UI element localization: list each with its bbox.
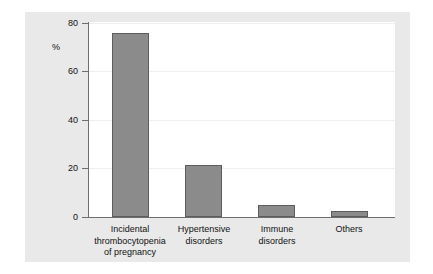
y-tick-label-60: 60 — [48, 67, 78, 76]
x-tick-label-line: of pregnancy — [78, 247, 182, 259]
y-tick-mark-0 — [82, 217, 88, 218]
y-tick-mark-60 — [82, 71, 88, 72]
y-tick-mark-40 — [82, 120, 88, 121]
x-tick-label-immune: Immune disorders — [234, 224, 320, 247]
y-tick-label-80: 80 — [48, 19, 78, 28]
x-tick-label-line: Immune — [234, 224, 320, 236]
bar-hypertensive-disorders[interactable] — [185, 165, 222, 217]
bar-immune-disorders[interactable] — [258, 205, 295, 217]
y-axis-label: % — [52, 42, 60, 52]
y-tick-mark-80 — [82, 23, 88, 24]
y-tick-mark-20 — [82, 168, 88, 169]
x-tick-label-others: Others — [309, 224, 389, 236]
chart-figure: 0 20 40 60 80 % Incidental thrombocytope… — [0, 0, 433, 274]
y-tick-label-40: 40 — [48, 116, 78, 125]
x-axis-line — [88, 217, 395, 218]
gridline-80 — [89, 23, 395, 24]
x-tick-label-line: disorders — [234, 236, 320, 248]
y-tick-label-0: 0 — [48, 213, 78, 222]
bar-incidental-thrombocytopenia-of-pregnancy[interactable] — [112, 33, 149, 217]
y-axis-tick-labels: 0 20 40 60 80 — [46, 0, 78, 274]
bar-others[interactable] — [331, 211, 368, 217]
y-axis-line — [88, 22, 89, 218]
x-tick-label-line: Others — [309, 224, 389, 236]
y-tick-label-20: 20 — [48, 164, 78, 173]
